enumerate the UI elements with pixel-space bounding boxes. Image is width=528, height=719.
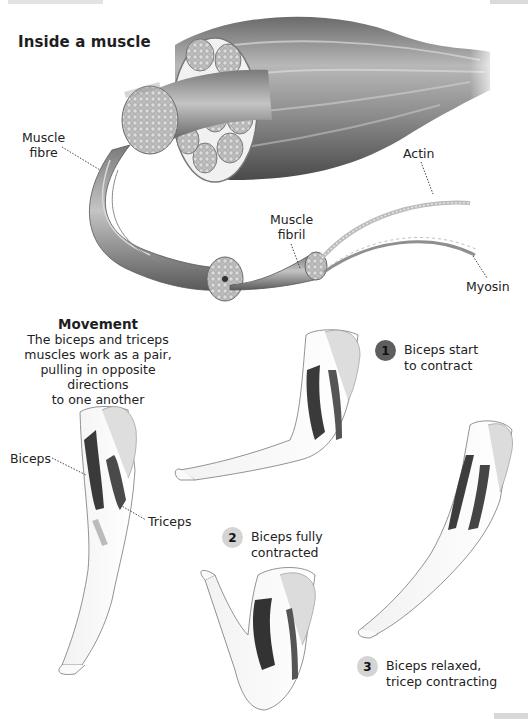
label-actin: Actin bbox=[403, 146, 435, 161]
step-text: Biceps fully contracted bbox=[251, 529, 323, 561]
label-biceps: Biceps bbox=[10, 451, 51, 466]
movement-intro: Movement The biceps and triceps muscles … bbox=[8, 316, 188, 407]
arm-step-1 bbox=[175, 330, 360, 480]
label-triceps: Triceps bbox=[148, 514, 191, 529]
leader-actin bbox=[421, 162, 433, 194]
section-title-inside-muscle: Inside a muscle bbox=[18, 33, 151, 51]
arm-step-2 bbox=[201, 568, 315, 711]
arm-extended bbox=[59, 406, 137, 674]
muscle-fibril bbox=[230, 252, 327, 290]
section-title-movement: Movement bbox=[8, 316, 188, 332]
arm-step-3 bbox=[358, 421, 512, 638]
leader-muscle-fibre bbox=[62, 147, 100, 170]
step-number-badge: 2 bbox=[222, 527, 243, 548]
top-fragment-right bbox=[490, 0, 528, 4]
actin-filament bbox=[322, 203, 470, 258]
step-1: 1 Biceps start to contract bbox=[375, 342, 478, 374]
label-muscle-fibril: Muscle fibril bbox=[270, 212, 313, 242]
step-3: 3 Biceps relaxed, tricep contracting bbox=[357, 658, 497, 690]
step-text: Biceps relaxed, tricep contracting bbox=[386, 658, 497, 690]
leader-biceps bbox=[52, 458, 86, 475]
step-text: Biceps start to contract bbox=[404, 342, 478, 374]
movement-description: The biceps and triceps muscles work as a… bbox=[8, 332, 188, 407]
myosin-filament bbox=[324, 242, 475, 272]
step-number-badge: 1 bbox=[375, 340, 396, 361]
step-2: 2 Biceps fully contracted bbox=[222, 529, 323, 561]
top-fragment-left bbox=[8, 0, 103, 4]
label-myosin: Myosin bbox=[466, 279, 510, 294]
page-corner-bar bbox=[494, 713, 528, 719]
leader-myosin bbox=[473, 256, 487, 278]
label-muscle-fibre: Muscle fibre bbox=[22, 130, 65, 160]
step-number-badge: 3 bbox=[357, 656, 378, 677]
